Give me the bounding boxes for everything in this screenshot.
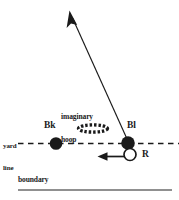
yard-line-label-row1: yard (3, 143, 17, 150)
diagram-canvas: Bk Bl R yard line imaginary hoop boundar… (0, 0, 179, 200)
bk-label: Bk (44, 121, 55, 131)
boundary-label: boundary (18, 176, 48, 184)
r-label: R (142, 150, 149, 160)
imaginary-hoop-label-row1: imaginary (61, 113, 93, 121)
bl-label: Bl (127, 121, 136, 131)
yard-line-label: yard line (3, 128, 17, 187)
imaginary-hoop-label-row2: hoop (61, 136, 93, 144)
r-player-marker (124, 149, 136, 161)
short-arrow-head-icon (98, 152, 108, 161)
bl-player-marker (121, 136, 135, 150)
imaginary-hoop-label: imaginary hoop (61, 97, 93, 160)
yard-line-label-row2: line (3, 165, 17, 172)
